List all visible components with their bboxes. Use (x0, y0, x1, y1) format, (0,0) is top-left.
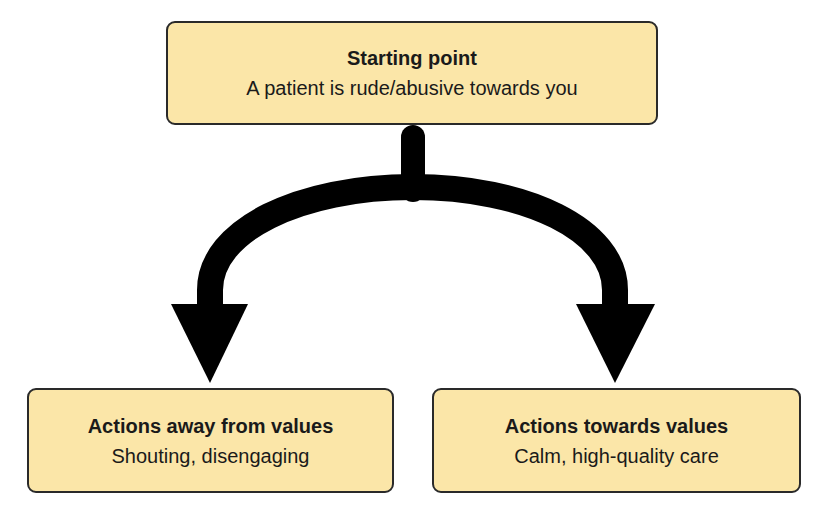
actions-away-box: Actions away from values Shouting, disen… (27, 388, 394, 493)
actions-away-description: Shouting, disengaging (112, 441, 310, 471)
arrowhead-left-icon (171, 304, 248, 383)
arrow-arc (210, 187, 615, 310)
actions-towards-title: Actions towards values (505, 411, 728, 441)
starting-point-description: A patient is rude/abusive towards you (246, 73, 577, 103)
actions-towards-box: Actions towards values Calm, high-qualit… (432, 388, 801, 493)
starting-point-title: Starting point (347, 43, 477, 73)
starting-point-box: Starting point A patient is rude/abusive… (166, 21, 658, 125)
arrowhead-right-icon (576, 304, 655, 383)
actions-towards-description: Calm, high-quality care (514, 441, 719, 471)
actions-away-title: Actions away from values (88, 411, 334, 441)
